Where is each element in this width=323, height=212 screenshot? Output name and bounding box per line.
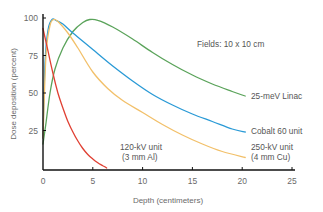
- y-axis-title: Dose deposition (percent): [9, 48, 18, 140]
- series-label: (3 mm Al): [122, 152, 158, 162]
- y-tick-label: 75: [29, 51, 39, 61]
- x-tick-label: 10: [138, 176, 148, 186]
- series-label: 25-meV Linac: [251, 91, 302, 101]
- x-tick-label: 15: [188, 176, 198, 186]
- x-tick-label: 20: [237, 176, 247, 186]
- y-tick-label: 25: [29, 126, 39, 136]
- x-axis-title: Depth (centimeters): [133, 196, 204, 205]
- y-tick-label: 50: [29, 88, 39, 98]
- x-tick-label: 25: [287, 176, 297, 186]
- series-line-0: [43, 19, 245, 144]
- series-line-3: [43, 29, 107, 169]
- series-label: 120-kV unit: [120, 142, 163, 152]
- series-label: Cobalt 60 unit: [251, 126, 303, 136]
- x-tick-label: 0: [41, 176, 46, 186]
- x-tick-label: 5: [90, 176, 95, 186]
- series-labels-group: 25-meV LinacCobalt 60 unit250-kV unit(4 …: [120, 91, 303, 162]
- series-label: 250-kV unit: [251, 142, 294, 152]
- dose-depth-chart: 0510152025255075100 Depth (centimeters) …: [0, 0, 323, 212]
- series-label: (4 mm Cu): [251, 152, 290, 162]
- fields-annotation: Fields: 10 x 10 cm: [197, 39, 264, 49]
- y-tick-label: 100: [24, 13, 38, 23]
- series-line-1: [43, 19, 245, 138]
